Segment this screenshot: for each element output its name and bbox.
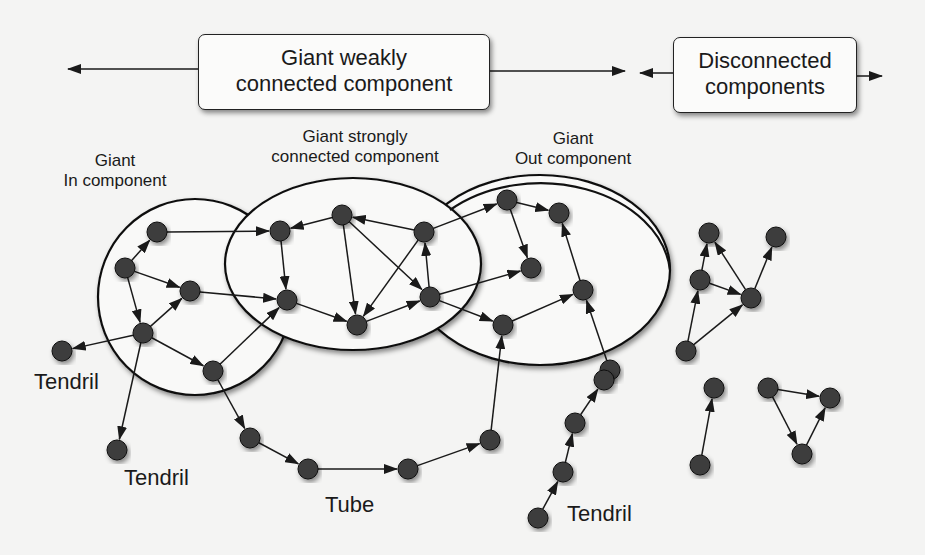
graph-node-o1	[497, 190, 517, 210]
graph-node-d9	[820, 388, 840, 408]
edge-arrow	[167, 231, 269, 232]
graph-node-o2	[549, 203, 569, 223]
tendril-left-label: Tendril	[34, 372, 99, 392]
tube-label: Tube	[325, 495, 374, 515]
edge-arrow	[417, 444, 479, 466]
graph-node-d8	[758, 378, 778, 398]
graph-node-s2	[332, 205, 352, 225]
graph-node-in2	[115, 258, 135, 278]
edge-arrow	[755, 247, 772, 289]
graph-node-r4	[594, 370, 614, 390]
graph-node-d5	[676, 341, 696, 361]
edge-arrow	[702, 244, 707, 270]
edge-arrow	[565, 434, 572, 463]
graph-node-in5	[203, 361, 223, 381]
graph-node-s4	[277, 290, 297, 310]
edge-arrow	[709, 283, 740, 294]
graph-node-d2	[766, 227, 786, 247]
edge-arrow	[778, 390, 819, 397]
graph-node-o5	[493, 315, 513, 335]
graph-node-o4	[573, 280, 593, 300]
graph-node-t3	[398, 459, 418, 479]
graph-node-s3	[414, 222, 434, 242]
graph-node-in4	[133, 323, 153, 343]
edge-arrow	[259, 443, 298, 464]
graph-node-s1	[270, 221, 290, 241]
graph-node-o3	[521, 258, 541, 278]
graph-node-tl	[52, 341, 72, 361]
disconnected-box-line2: components	[674, 74, 856, 100]
tendril-right-label: Tendril	[567, 504, 632, 524]
edge-arrow	[773, 397, 797, 444]
graph-node-r1	[528, 508, 548, 528]
edge-arrow	[694, 305, 743, 345]
giant-weakly-connected-component-box: Giant weakly connected component	[198, 34, 490, 110]
edge-arrow	[715, 242, 746, 289]
edge-arrow	[702, 399, 712, 455]
weak-box-line1: Giant weakly	[199, 45, 489, 71]
edge-arrow	[543, 482, 558, 510]
edge-arrow	[688, 291, 698, 341]
scc-label: Giant strongly connected component	[265, 127, 445, 167]
graph-node-r2	[553, 462, 573, 482]
edge-arrow	[806, 408, 825, 445]
graph-node-s6	[420, 287, 440, 307]
graph-node-t4	[480, 430, 500, 450]
weak-box-line2: connected component	[199, 71, 489, 97]
out-component-label: Giant Out component	[508, 129, 638, 169]
graph-node-d3	[690, 270, 710, 290]
edge-arrow	[581, 389, 598, 415]
graph-node-tb	[107, 440, 127, 460]
graph-node-in3	[180, 281, 200, 301]
graph-node-s5	[347, 315, 367, 335]
tendril-bottom-label: Tendril	[124, 468, 189, 488]
disconnected-box-line1: Disconnected	[674, 48, 856, 74]
in-component-label: Giant In component	[50, 151, 180, 191]
graph-node-in1	[147, 222, 167, 242]
graph-node-d7	[690, 455, 710, 475]
graph-node-d6	[704, 378, 724, 398]
graph-node-d1	[699, 223, 719, 243]
graph-node-r3	[565, 413, 585, 433]
disconnected-components-box: Disconnected components	[673, 37, 857, 113]
graph-node-t1	[240, 428, 260, 448]
graph-node-d4	[741, 288, 761, 308]
graph-node-t2	[298, 459, 318, 479]
graph-node-d10	[792, 444, 812, 464]
